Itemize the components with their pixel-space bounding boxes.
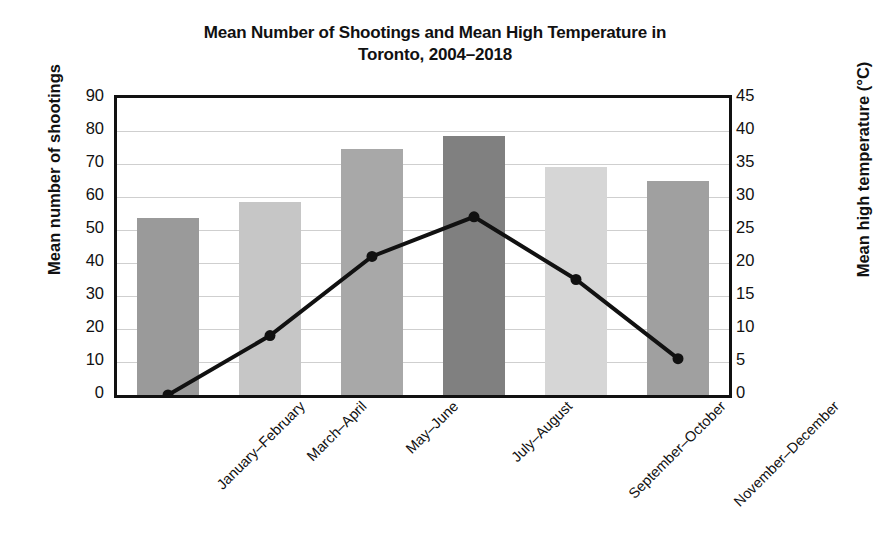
y-axis-left-tick-label: 10 bbox=[64, 351, 104, 368]
chart-title: Mean Number of Shootings and Mean High T… bbox=[90, 22, 780, 66]
y-axis-right-tick-label: 25 bbox=[736, 219, 776, 236]
x-axis-tick-label: September–October bbox=[625, 398, 729, 502]
x-axis-tick-label: January–February bbox=[213, 398, 308, 493]
temperature-line-series bbox=[117, 98, 729, 395]
y-axis-left-tick-label: 0 bbox=[64, 384, 104, 401]
x-axis-tick-label: July–August bbox=[508, 398, 575, 465]
y-axis-left-tick-label: 70 bbox=[64, 153, 104, 170]
temperature-line bbox=[168, 217, 678, 395]
y-axis-left-tick-label: 20 bbox=[64, 318, 104, 335]
plot-area bbox=[114, 95, 732, 398]
data-point-marker bbox=[469, 211, 480, 222]
data-point-marker bbox=[265, 330, 276, 341]
y-axis-left-tick-label: 60 bbox=[64, 186, 104, 203]
y-axis-left-tick-label: 30 bbox=[64, 285, 104, 302]
y-axis-right-tick-label: 30 bbox=[736, 186, 776, 203]
data-point-marker bbox=[163, 390, 174, 396]
y-axis-right-tick-label: 45 bbox=[736, 87, 776, 104]
chart-title-line-2: Toronto, 2004–2018 bbox=[90, 44, 780, 66]
y-axis-left-ticks: 0102030405060708090 bbox=[60, 95, 104, 392]
y-axis-right-tick-label: 15 bbox=[736, 285, 776, 302]
y-axis-right-tick-label: 10 bbox=[736, 318, 776, 335]
y-axis-right-ticks: 051015202530354045 bbox=[736, 95, 780, 392]
y-axis-right-tick-label: 35 bbox=[736, 153, 776, 170]
data-point-marker bbox=[571, 274, 582, 285]
y-axis-right-tick-label: 5 bbox=[736, 351, 776, 368]
chart-title-line-1: Mean Number of Shootings and Mean High T… bbox=[90, 22, 780, 44]
y-axis-right-tick-label: 0 bbox=[736, 384, 776, 401]
x-axis-tick-label: November–December bbox=[731, 398, 843, 510]
y-axis-left-tick-label: 40 bbox=[64, 252, 104, 269]
y-axis-left-tick-label: 50 bbox=[64, 219, 104, 236]
y-axis-right-title: Mean high temperature (°C) bbox=[854, 5, 873, 335]
x-axis-category-labels: January–FebruaryMarch–AprilMay–JuneJuly–… bbox=[114, 398, 726, 548]
y-axis-right-tick-label: 40 bbox=[736, 120, 776, 137]
y-axis-left-tick-label: 90 bbox=[64, 87, 104, 104]
x-axis-tick-label: March–April bbox=[304, 398, 370, 464]
data-point-marker bbox=[367, 251, 378, 262]
y-axis-left-tick-label: 80 bbox=[64, 120, 104, 137]
x-axis-tick-label: May–June bbox=[403, 398, 462, 457]
data-point-marker bbox=[673, 353, 684, 364]
y-axis-right-tick-label: 20 bbox=[736, 252, 776, 269]
